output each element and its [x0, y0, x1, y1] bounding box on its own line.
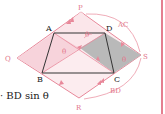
label-arc-ac: AC: [117, 21, 128, 29]
right-border-line: [161, 0, 163, 114]
label-arc-bd: BD: [110, 87, 121, 95]
label-theta-left: θ: [62, 48, 66, 56]
label-p: P: [78, 4, 83, 12]
label-d: D: [106, 24, 112, 33]
label-r: R: [76, 104, 82, 112]
label-q: Q: [5, 55, 11, 63]
label-a: A: [45, 24, 52, 33]
label-b: B: [37, 75, 43, 84]
label-c: C: [114, 75, 120, 84]
label-s: S: [143, 53, 148, 61]
label-theta-right: θ: [122, 56, 126, 64]
label-theta-top: θ: [85, 31, 89, 39]
formula-text: · BD sin θ: [0, 90, 49, 101]
